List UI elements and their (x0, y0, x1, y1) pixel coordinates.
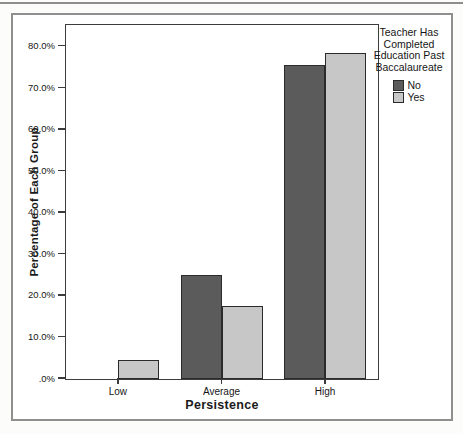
legend-label-yes: Yes (407, 92, 424, 103)
legend-swatch-no (393, 80, 404, 91)
legend-label-no: No (407, 80, 420, 91)
y-tick-mark (58, 87, 65, 88)
x-tick-label-low: Low (78, 386, 158, 397)
bar-yes-low (118, 360, 159, 379)
y-tick-label: 40.0% (2, 206, 55, 217)
y-tick-mark (58, 170, 65, 171)
legend-item-yes: Yes (393, 91, 424, 103)
y-tick-mark (58, 253, 65, 254)
chart-frame: Percentage of Each Group Persistence .0%… (11, 13, 453, 421)
bar-no-average (181, 275, 222, 379)
plot-area: .0%10.0%20.0%30.0%40.0%50.0%60.0%70.0%80… (65, 24, 379, 380)
y-tick-mark (58, 294, 65, 295)
legend-item-no: No (393, 79, 424, 91)
y-tick-label: 30.0% (2, 248, 55, 259)
y-tick-label: 80.0% (2, 40, 55, 51)
y-tick-label: 70.0% (2, 82, 55, 93)
y-tick-label: 10.0% (2, 331, 55, 342)
x-axis-title: Persistence (185, 398, 258, 412)
legend: Teacher Has Completed Education Past Bac… (365, 27, 453, 107)
y-tick-mark (58, 211, 65, 212)
x-tick-label-high: High (285, 386, 365, 397)
y-tick-label: 50.0% (2, 165, 55, 176)
y-tick-label: 20.0% (2, 289, 55, 300)
scan-top-line (0, 2, 463, 4)
bar-yes-high (325, 53, 366, 379)
legend-swatch-yes (393, 92, 404, 103)
bar-no-high (284, 65, 325, 379)
x-tick-label-average: Average (182, 386, 262, 397)
legend-items: NoYes (365, 79, 453, 107)
y-tick-mark (58, 336, 65, 337)
y-tick-label: .0% (2, 373, 55, 384)
legend-items-inner: NoYes (393, 79, 424, 103)
y-tick-mark (58, 45, 65, 46)
figure: Percentage of Each Group Persistence .0%… (0, 0, 463, 434)
y-tick-mark (58, 128, 65, 129)
bar-yes-average (222, 306, 263, 379)
legend-title: Teacher Has Completed Education Past Bac… (365, 27, 453, 73)
y-tick-mark (58, 377, 65, 378)
y-tick-label: 60.0% (2, 123, 55, 134)
